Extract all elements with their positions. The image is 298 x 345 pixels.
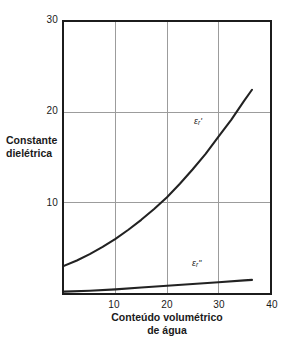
x-tick-label-40: 40: [260, 299, 284, 310]
y-axis-title-line-1: Constante: [6, 134, 62, 147]
plot-area: [62, 20, 272, 295]
dielectric-constant-chart: 30 20 10 Constante dielétrica: [0, 0, 298, 345]
x-tick-label-20: 20: [155, 299, 179, 310]
x-tick-label-30: 30: [207, 299, 231, 310]
curve-eps-imag-line: [64, 280, 252, 292]
epsilon-prime: ': [200, 116, 202, 126]
y-tick-label-20: 20: [36, 105, 58, 116]
plot-canvas: [64, 22, 270, 293]
y-axis-title: Constante dielétrica: [6, 134, 62, 159]
epsilon-double-prime: '': [198, 258, 201, 268]
annotation-epsilon-r-prime: εr': [194, 116, 202, 126]
y-tick-label-30: 30: [36, 14, 58, 25]
y-tick-label-10: 10: [36, 197, 58, 208]
x-tick-label-10: 10: [102, 299, 126, 310]
curve-eps-real-line: [64, 90, 252, 266]
x-axis-title: Conteúdo volumétrico de água: [62, 311, 272, 336]
x-axis-title-line-2: de água: [62, 324, 272, 337]
y-axis-title-line-2: dielétrica: [6, 147, 62, 160]
x-axis-title-line-1: Conteúdo volumétrico: [62, 311, 272, 324]
annotation-epsilon-r-double-prime: εr'': [192, 258, 202, 268]
